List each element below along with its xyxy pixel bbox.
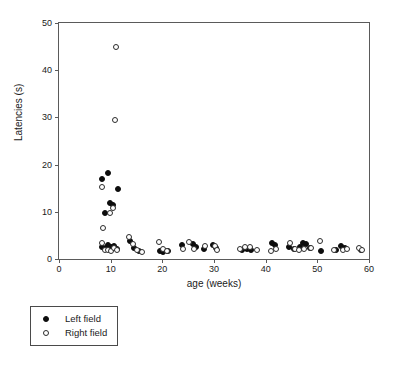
plot-area: 010203040500102030405060: [58, 22, 370, 260]
x-axis-tick-label: 30: [209, 265, 219, 274]
x-axis-tick-label: 10: [106, 265, 116, 274]
data-point-right-field: [287, 240, 293, 246]
y-axis-tick-label: 10: [42, 207, 52, 216]
x-axis-tick: [369, 259, 370, 263]
data-point-right-field: [114, 247, 120, 253]
data-point-right-field: [344, 246, 350, 252]
chart-legend: Left field Right field: [30, 306, 118, 346]
data-point-right-field: [164, 248, 170, 254]
data-point-right-field: [99, 240, 105, 246]
x-axis-tick: [162, 259, 163, 263]
x-axis-tick: [214, 259, 215, 263]
data-point-right-field: [202, 243, 208, 249]
data-point-left-field: [318, 248, 324, 254]
open-circle-icon: [37, 330, 55, 336]
data-point-right-field: [107, 210, 113, 216]
data-point-right-field: [247, 244, 253, 250]
y-axis-tick: [55, 70, 59, 71]
data-point-left-field: [115, 186, 121, 192]
legend-item-right-field: Right field: [37, 326, 107, 340]
data-point-right-field: [317, 238, 323, 244]
y-axis-tick: [55, 23, 59, 24]
y-axis-title: Latencies (s): [14, 84, 24, 141]
x-axis-tick-label: 60: [364, 265, 374, 274]
legend-label-left-field: Left field: [65, 314, 101, 324]
data-point-right-field: [139, 249, 145, 255]
data-point-right-field: [180, 246, 186, 252]
scatter-plot-figure: 010203040500102030405060 Latencies (s) a…: [0, 0, 395, 367]
x-axis-tick-label: 0: [56, 265, 61, 274]
x-axis-tick-label: 50: [312, 265, 322, 274]
cropped-caption: [0, 357, 395, 367]
data-point-left-field: [105, 170, 111, 176]
filled-circle-icon: [37, 316, 55, 322]
y-axis-tick-label: 30: [42, 113, 52, 122]
data-point-left-field: [99, 176, 105, 182]
x-axis-tick-label: 20: [157, 265, 167, 274]
data-points-layer: [59, 23, 369, 259]
y-axis-tick: [55, 212, 59, 213]
x-axis-tick-label: 40: [261, 265, 271, 274]
data-point-right-field: [273, 246, 279, 252]
legend-item-left-field: Left field: [37, 312, 107, 326]
x-axis-tick: [266, 259, 267, 263]
x-axis-tick: [317, 259, 318, 263]
data-point-right-field: [100, 225, 106, 231]
data-point-right-field: [156, 239, 162, 245]
data-point-right-field: [99, 184, 105, 190]
data-point-right-field: [214, 247, 220, 253]
data-point-right-field: [254, 247, 260, 253]
data-point-right-field: [301, 246, 307, 252]
data-point-right-field: [113, 44, 119, 50]
y-axis-tick-label: 0: [47, 255, 52, 264]
x-axis-tick: [111, 259, 112, 263]
data-point-right-field: [191, 246, 197, 252]
y-axis-tick: [55, 117, 59, 118]
x-axis-tick: [59, 259, 60, 263]
y-axis-tick: [55, 165, 59, 166]
x-axis-title: age (weeks): [58, 279, 370, 289]
y-axis-tick-label: 50: [42, 19, 52, 28]
y-axis-tick-label: 40: [42, 66, 52, 75]
y-axis-tick-label: 20: [42, 160, 52, 169]
legend-label-right-field: Right field: [65, 328, 107, 338]
data-point-right-field: [112, 117, 118, 123]
data-point-right-field: [331, 247, 337, 253]
data-point-right-field: [359, 247, 365, 253]
data-point-right-field: [308, 245, 314, 251]
